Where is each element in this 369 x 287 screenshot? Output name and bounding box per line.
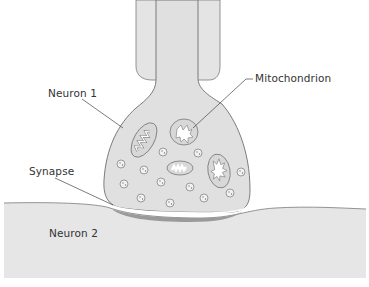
diagram-canvas: [0, 0, 369, 287]
vesicle: [159, 148, 167, 156]
neuron2-label: Neuron 2: [49, 227, 98, 239]
mitochondrion-3: [167, 161, 193, 175]
mitochondrion-2: [170, 119, 198, 145]
vesicle: [200, 194, 208, 202]
neuron2-body: [4, 203, 366, 278]
vesicle: [226, 189, 234, 197]
vesicle: [120, 180, 128, 188]
mitochondrion-label: Mitochondrion: [255, 72, 331, 84]
vesicle: [194, 149, 202, 157]
synapse-diagram: Neuron 1 Mitochondrion Synapse Neuron 2: [0, 0, 369, 287]
vesicle: [137, 194, 145, 202]
vesicle: [186, 183, 194, 191]
vesicle: [140, 166, 148, 174]
neuron1-label: Neuron 1: [48, 87, 97, 99]
vesicle: [166, 199, 174, 207]
vesicle: [237, 168, 245, 176]
synapse-label: Synapse: [29, 165, 74, 177]
vesicle: [157, 178, 165, 186]
neuron1-leader-line: [82, 99, 123, 128]
vesicle: [117, 160, 125, 168]
